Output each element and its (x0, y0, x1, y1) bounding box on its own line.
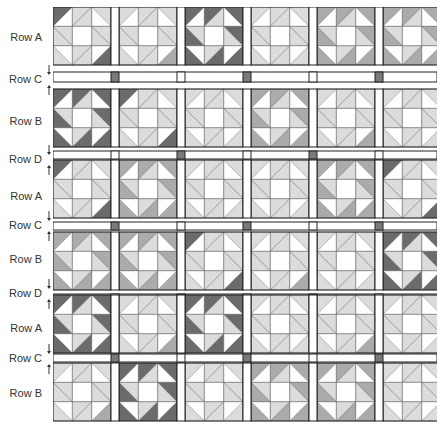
quilt-block (119, 89, 177, 147)
quilt-block (53, 363, 111, 421)
quilt-block (53, 160, 111, 218)
sashing-strip (53, 354, 437, 362)
quilt-block (317, 89, 375, 147)
quilt-block (53, 232, 111, 290)
sashing-strip (53, 151, 437, 159)
dimension-arrow-icon (46, 344, 52, 374)
quilt-block (251, 89, 309, 147)
quilt-block (383, 232, 437, 290)
row-label: Row A (0, 31, 42, 43)
quilt-layout-diagram (53, 7, 437, 427)
quilt-block (119, 295, 177, 353)
quilt-block (53, 295, 111, 353)
row-label: Row B (0, 115, 42, 127)
quilt-block (185, 295, 243, 353)
row-label: Row C (0, 73, 42, 85)
quilt-block (251, 295, 309, 353)
row-label: Row C (0, 219, 42, 231)
quilt-block (251, 232, 309, 290)
quilt-block (317, 295, 375, 353)
quilt-block (119, 160, 177, 218)
quilt-block (383, 7, 437, 65)
quilt-block (317, 232, 375, 290)
quilt-block (383, 295, 437, 353)
quilt-block (317, 160, 375, 218)
dimension-arrow-icon (46, 65, 52, 95)
quilt-block (251, 363, 309, 421)
quilt-block (119, 7, 177, 65)
quilt-block (317, 363, 375, 421)
quilt-block (383, 89, 437, 147)
quilt-block (185, 7, 243, 65)
quilt-block (185, 363, 243, 421)
dimension-arrow-icon (46, 211, 52, 241)
row-label: Row A (0, 322, 42, 334)
quilt-block (119, 363, 177, 421)
quilt-grid (53, 7, 437, 427)
row-label: Row B (0, 387, 42, 399)
row-label: Row D (0, 287, 42, 299)
quilt-block (185, 232, 243, 290)
quilt-block (251, 7, 309, 65)
quilt-block (53, 7, 111, 65)
quilt-block (383, 363, 437, 421)
quilt-block (119, 232, 177, 290)
quilt-block (53, 89, 111, 147)
quilt-block (383, 160, 437, 218)
sashing-strip (53, 222, 437, 230)
dimension-arrow-icon (46, 145, 52, 175)
quilt-block (185, 160, 243, 218)
row-label: Row C (0, 352, 42, 364)
quilt-block (317, 7, 375, 65)
row-label: Row A (0, 190, 42, 202)
dimension-arrow-icon (46, 279, 52, 309)
sashing-strip (53, 72, 437, 82)
quilt-block (251, 160, 309, 218)
row-label: Row D (0, 153, 42, 165)
quilt-block (185, 89, 243, 147)
row-label: Row B (0, 253, 42, 265)
